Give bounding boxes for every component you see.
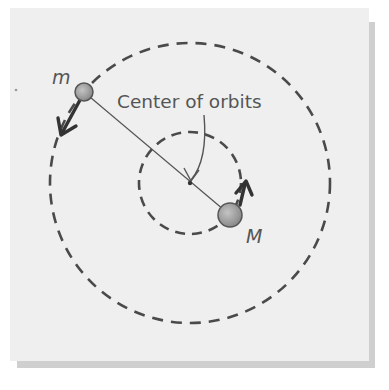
speck: [15, 89, 18, 92]
center-point: [188, 181, 192, 185]
velocity-arrow-m-icon: [58, 100, 80, 135]
large-mass-body: [218, 203, 242, 227]
center-of-orbits-label: Center of orbits: [117, 91, 262, 112]
small-mass-body: [75, 83, 93, 101]
orbit-diagram: m M Center of orbits: [0, 0, 389, 390]
small-mass-label: m: [52, 66, 71, 88]
center-pointer-arrow: [191, 115, 205, 180]
large-mass-label: M: [246, 225, 262, 247]
